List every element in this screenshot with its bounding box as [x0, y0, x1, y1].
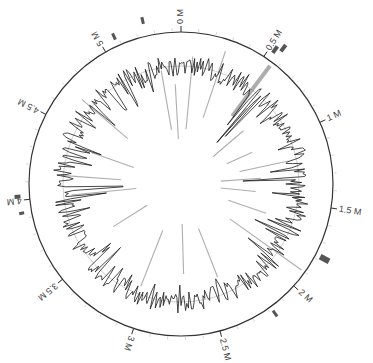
- major-tick: [41, 112, 46, 115]
- outer-feature-marker: [111, 33, 117, 41]
- tick-label: 2 M: [297, 287, 315, 304]
- inner-feature-line: [182, 224, 183, 274]
- minor-tick: [249, 44, 250, 47]
- inner-feature-line: [91, 153, 133, 168]
- inner-feature-line: [199, 229, 218, 277]
- minor-tick: [75, 70, 77, 72]
- minor-tick: [49, 266, 52, 268]
- minor-tick: [116, 323, 117, 326]
- major-tick: [264, 52, 267, 57]
- tick-label: 1.5 M: [338, 204, 362, 217]
- gc-skew-trace: [54, 58, 308, 313]
- minor-tick: [89, 58, 91, 60]
- tick-label: 2.5 M: [218, 337, 233, 361]
- minor-tick: [253, 319, 254, 322]
- outer-feature-marker: [140, 17, 145, 25]
- inner-feature-line: [203, 51, 225, 117]
- inner-feature-lines: [61, 51, 301, 286]
- major-tick: [58, 279, 63, 283]
- inner-feature-line: [141, 231, 163, 287]
- minor-tick: [331, 155, 334, 156]
- minor-tick: [33, 234, 36, 235]
- inner-feature-line: [175, 84, 178, 139]
- minor-tick: [150, 334, 151, 337]
- minor-tick: [29, 217, 32, 218]
- minor-tick: [237, 326, 238, 329]
- minor-tick: [282, 299, 284, 301]
- major-tick: [103, 47, 106, 52]
- minor-tick: [323, 242, 326, 243]
- minor-tick: [303, 90, 305, 92]
- outer-feature-marker: [19, 211, 24, 215]
- major-tick: [331, 208, 337, 209]
- inner-feature-line: [227, 152, 253, 163]
- inner-feature-line: [113, 205, 147, 226]
- major-tick: [24, 199, 30, 200]
- tick-label: 3.5 M: [36, 281, 60, 303]
- tick-label: 0 M: [175, 9, 185, 24]
- minor-tick: [71, 293, 73, 295]
- minor-tick: [216, 32, 217, 35]
- minor-tick: [120, 41, 121, 44]
- tick-label: 1 M: [325, 108, 343, 123]
- trace-path: [54, 58, 308, 313]
- minor-tick: [315, 258, 318, 259]
- minor-tick: [292, 76, 294, 78]
- minor-tick: [30, 146, 33, 147]
- tick-label: 3 M: [122, 335, 136, 352]
- minor-tick: [328, 225, 331, 226]
- minor-tick: [85, 305, 87, 307]
- inner-feature-line: [228, 200, 266, 213]
- major-tick: [132, 328, 134, 334]
- minor-tick: [233, 37, 234, 40]
- inner-feature-line: [221, 188, 256, 192]
- circular-genome-plot: 0 M0.5 M1 M1.5 M2 M2.5 M3 M3.5 M4 M4.5 M…: [0, 0, 373, 363]
- outer-feature-marker: [14, 195, 20, 199]
- inner-feature-line: [213, 131, 243, 157]
- minor-tick: [154, 30, 155, 33]
- outer-feature-marker: [319, 254, 331, 264]
- outer-feature-marker: [279, 44, 287, 53]
- tick-label: 4.5 M: [16, 97, 41, 116]
- minor-tick: [327, 138, 330, 139]
- minor-tick: [51, 97, 53, 99]
- minor-tick: [40, 250, 43, 251]
- inner-feature-line: [161, 71, 171, 130]
- minor-tick: [279, 64, 281, 66]
- minor-tick: [35, 129, 38, 130]
- minor-tick: [62, 83, 64, 85]
- minor-tick: [268, 310, 270, 312]
- minor-tick: [313, 105, 316, 107]
- major-tick: [320, 120, 325, 122]
- minor-tick: [100, 315, 102, 318]
- major-tick: [220, 331, 222, 337]
- tick-label: 5 M: [89, 30, 105, 48]
- outer-feature-markers: [14, 17, 330, 317]
- inner-feature-line: [186, 57, 193, 130]
- minor-tick: [306, 273, 308, 275]
- minor-tick: [137, 34, 138, 37]
- outer-feature-marker: [272, 310, 279, 317]
- major-tick: [294, 286, 298, 290]
